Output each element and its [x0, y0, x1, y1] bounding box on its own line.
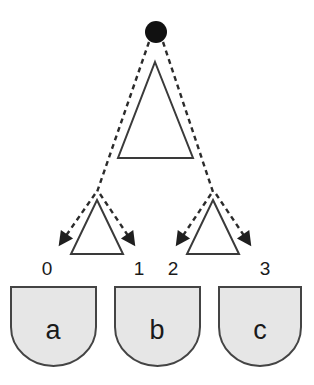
shield-a-label: a	[45, 315, 61, 345]
tree-diagram-canvas: 0 1 2 3 a b c	[0, 0, 314, 385]
main-triangle	[118, 62, 193, 158]
shield-b-label: b	[149, 315, 164, 345]
right-subtriangle	[187, 200, 239, 254]
left-subtriangle	[71, 200, 123, 254]
shield-c-label: c	[253, 315, 267, 345]
root-node-dot	[145, 21, 167, 43]
leaf-index-0: 0	[42, 258, 53, 279]
leaf-index-3: 3	[260, 258, 271, 279]
diagram-internal-nodes	[71, 62, 239, 254]
leaf-index-2: 2	[168, 258, 179, 279]
leaf-index-1: 1	[134, 258, 145, 279]
shield-shapes: a b c	[11, 287, 301, 366]
tree-diagram-svg: 0 1 2 3 a b c	[0, 0, 314, 385]
leaf-index-labels: 0 1 2 3	[42, 258, 271, 279]
